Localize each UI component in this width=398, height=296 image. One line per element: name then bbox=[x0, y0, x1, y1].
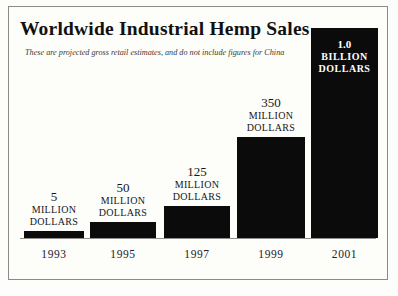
bar-unit-line2-1999: DOLLARS bbox=[247, 122, 296, 134]
x-tick-1993: 1993 bbox=[24, 248, 84, 260]
x-axis-line bbox=[20, 238, 376, 239]
x-tick-2001: 2001 bbox=[311, 248, 378, 260]
bar-label-1997: 125 MILLION DOLLARS bbox=[173, 164, 222, 203]
bar-label-2001: 1.0 BILLION DOLLARS bbox=[319, 38, 371, 75]
bar-1993 bbox=[24, 231, 84, 238]
bar-unit-line2-1995: DOLLARS bbox=[99, 207, 148, 219]
bar-value-1995: 50 bbox=[99, 180, 148, 195]
bar-unit-line2-2001: DOLLARS bbox=[319, 63, 371, 75]
x-tick-1999: 1999 bbox=[237, 248, 305, 260]
bar-1997 bbox=[164, 206, 230, 238]
bar-unit-line1-1995: MILLION bbox=[99, 195, 148, 207]
hemp-sales-chart-figure: Worldwide Industrial Hemp Sales These ar… bbox=[0, 0, 398, 296]
bar-label-1999: 350 MILLION DOLLARS bbox=[247, 95, 296, 134]
bar-unit-line1-1997: MILLION bbox=[173, 179, 222, 191]
bar-unit-line1-2001: BILLION bbox=[319, 51, 371, 63]
bar-value-2001: 1.0 bbox=[319, 38, 371, 51]
plot-area: 5 MILLION DOLLARS 50 MILLION DOLLARS 125… bbox=[8, 6, 388, 280]
bar-unit-line2-1993: DOLLARS bbox=[30, 216, 79, 228]
bar-label-1995: 50 MILLION DOLLARS bbox=[99, 180, 148, 219]
bar-unit-line1-1999: MILLION bbox=[247, 110, 296, 122]
bar-value-1993: 5 bbox=[30, 189, 79, 204]
bar-1999 bbox=[237, 137, 305, 238]
bar-unit-line2-1997: DOLLARS bbox=[173, 191, 222, 203]
x-tick-1995: 1995 bbox=[90, 248, 156, 260]
bar-unit-line1-1993: MILLION bbox=[30, 204, 79, 216]
bar-1995 bbox=[90, 222, 156, 238]
x-tick-1997: 1997 bbox=[164, 248, 230, 260]
bar-label-1993: 5 MILLION DOLLARS bbox=[30, 189, 79, 228]
bar-value-1999: 350 bbox=[247, 95, 296, 110]
bar-value-1997: 125 bbox=[173, 164, 222, 179]
